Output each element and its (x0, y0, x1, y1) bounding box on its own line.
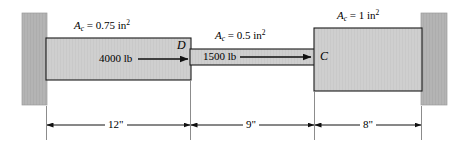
dimension-label-left: 12" (105, 119, 127, 130)
area-label-segment-dc: Ac = 0.5 in2 (215, 29, 266, 43)
area-symbol: A (74, 19, 81, 31)
area-subscript: c (344, 14, 347, 23)
right-wall (421, 13, 447, 105)
area-equals: = (350, 9, 356, 21)
dimension-label-middle: 9" (243, 119, 259, 130)
area-subscript: c (222, 34, 225, 43)
area-exponent: 2 (126, 18, 130, 27)
area-symbol: A (337, 9, 344, 21)
axial-bar-diagram: Ac = 0.75 in2 Ac = 0.5 in2 Ac = 1 in2 40… (0, 0, 471, 144)
area-symbol: A (215, 29, 222, 41)
force-label-1500lb: 1500 lb (203, 51, 236, 62)
left-wall (22, 13, 47, 105)
dimension-label-right: 8" (360, 119, 376, 130)
area-label-segment-ad: Ac = 0.75 in2 (74, 19, 130, 33)
node-label-d: D (177, 39, 186, 51)
area-value: 0.75 (96, 19, 115, 31)
area-value: 1 (359, 9, 365, 21)
area-label-segment-cb: Ac = 1 in2 (337, 9, 379, 23)
area-equals: = (87, 19, 93, 31)
node-label-c: C (320, 50, 328, 62)
area-unit: in (253, 29, 262, 41)
force-label-4000lb: 4000 lb (99, 53, 132, 64)
area-subscript: c (81, 24, 84, 33)
diagram-canvas (0, 0, 471, 144)
area-exponent: 2 (262, 28, 266, 37)
bar-segment-cb (314, 28, 422, 91)
area-value: 0.5 (237, 29, 251, 41)
area-equals: = (228, 29, 234, 41)
area-exponent: 2 (376, 8, 380, 17)
area-unit: in (367, 9, 376, 21)
